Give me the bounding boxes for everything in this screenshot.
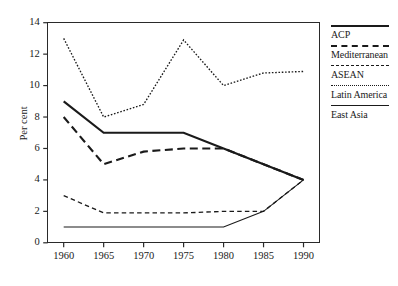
chart-container: 02468101214 1960196519701975198019851990…: [0, 0, 398, 286]
chart-legend: ACPMediterraneanASEANLatin AmericaEast A…: [331, 22, 397, 122]
y-tick-label: 0: [0, 236, 40, 247]
legend-entry-latin-america: Latin America: [331, 82, 397, 100]
legend-label: East Asia: [331, 109, 397, 120]
legend-label: Mediterranean: [331, 49, 397, 60]
legend-label: Latin America: [331, 89, 397, 100]
legend-entry-asean: ASEAN: [331, 62, 397, 80]
y-axis-label: Per cent: [18, 89, 29, 159]
plot-area: [47, 22, 320, 243]
y-tick-label: 2: [0, 205, 40, 216]
legend-label: ACP: [331, 29, 397, 40]
legend-line-sample: [331, 102, 391, 109]
y-tick-label: 14: [0, 16, 40, 27]
legend-line-sample: [331, 42, 391, 49]
legend-line-sample: [331, 22, 391, 29]
legend-line-sample: [331, 82, 391, 89]
legend-line-sample: [331, 62, 391, 69]
y-tick-label: 4: [0, 173, 40, 184]
legend-entry-east-asia: East Asia: [331, 102, 397, 120]
x-tick-label: 1990: [281, 250, 327, 261]
legend-label: ASEAN: [331, 69, 397, 80]
legend-entry-mediterranean: Mediterranean: [331, 42, 397, 60]
y-tick-label: 12: [0, 48, 40, 59]
legend-entry-acp: ACP: [331, 22, 397, 40]
